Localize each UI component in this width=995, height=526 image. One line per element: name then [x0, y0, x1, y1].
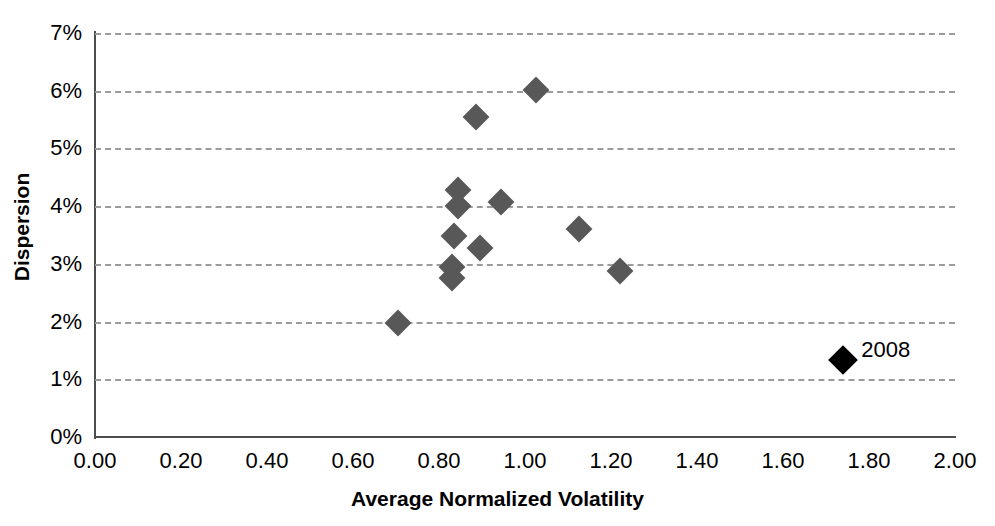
- x-tick-label: 1.80: [824, 450, 914, 472]
- data-point-marker: [828, 345, 858, 375]
- data-point-marker: [462, 103, 489, 130]
- y-tick-label: 0%: [18, 426, 82, 448]
- x-tick-label: 0.00: [50, 450, 140, 472]
- x-tick-label: 0.60: [308, 450, 398, 472]
- x-axis-title: Average Normalized Volatility: [0, 487, 995, 511]
- gridline-5%: [95, 148, 955, 150]
- gridline-7%: [95, 33, 955, 35]
- data-point-marker: [385, 310, 412, 337]
- y-tick-label: 6%: [18, 80, 82, 102]
- data-point-marker: [488, 188, 515, 215]
- y-axis-title: Dispersion: [10, 127, 34, 327]
- x-tick-label: 0.80: [394, 450, 484, 472]
- y-tick-label: 7%: [18, 22, 82, 44]
- scatter-chart: 2008 0%1%2%3%4%5%6%7% 0.000.200.400.600.…: [0, 0, 995, 526]
- x-tick-label: 0.40: [222, 450, 312, 472]
- data-point-marker: [606, 258, 633, 285]
- data-point-marker: [445, 192, 472, 219]
- x-tick-label: 0.20: [136, 450, 226, 472]
- gridline-1%: [95, 379, 955, 381]
- x-tick-label: 1.20: [566, 450, 656, 472]
- gridline-4%: [95, 206, 955, 208]
- plot-area: 2008: [95, 33, 955, 437]
- gridline-2%: [95, 322, 955, 324]
- data-point-marker: [466, 234, 493, 261]
- x-tick-label: 1.00: [480, 450, 570, 472]
- x-tick-label: 1.60: [738, 450, 828, 472]
- data-point-marker: [441, 223, 468, 250]
- data-point-label-2008: 2008: [861, 337, 910, 363]
- y-tick-label: 1%: [18, 368, 82, 390]
- gridline-3%: [95, 264, 955, 266]
- data-point-marker: [522, 77, 549, 104]
- data-point-marker: [565, 216, 592, 243]
- x-tick-label: 2.00: [910, 450, 995, 472]
- x-tick-label: 1.40: [652, 450, 742, 472]
